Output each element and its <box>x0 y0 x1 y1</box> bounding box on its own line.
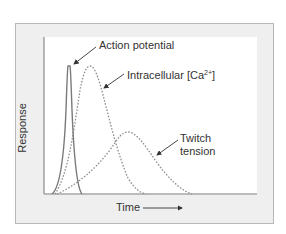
label-action-potential: Action potential <box>99 39 174 52</box>
label-calcium-charge: 2+ <box>204 69 212 76</box>
calcium-arrow <box>104 74 124 88</box>
chart-svg <box>0 0 286 234</box>
label-twitch-line2: tension <box>180 145 215 158</box>
twitch-tension-curve <box>57 132 192 194</box>
action-potential-curve <box>52 66 82 194</box>
action-potential-arrow <box>74 47 96 64</box>
label-calcium-suffix: ] <box>212 69 215 81</box>
label-intracellular-calcium: Intracellular [Ca2+] <box>127 66 215 82</box>
label-twitch-tension: Twitch tension <box>180 132 215 158</box>
y-axis-label: Response <box>16 103 28 153</box>
calcium-curve <box>55 66 146 194</box>
twitch-arrow <box>157 140 178 155</box>
x-axis-label: Time <box>116 201 140 214</box>
label-calcium-prefix: Intracellular [Ca <box>127 69 204 81</box>
label-twitch-line1: Twitch <box>180 132 215 145</box>
